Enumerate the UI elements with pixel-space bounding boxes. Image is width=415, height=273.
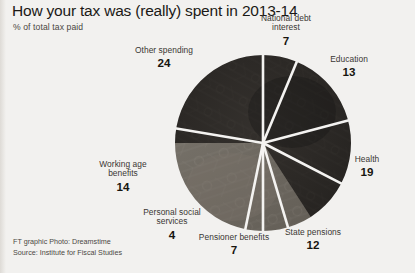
credit-line-graphic: FT graphic Photo: Dreamstime [13,236,122,247]
slice-label-other-spending: Other spending 24 [122,46,206,69]
slice-label-health: Health 19 [340,155,394,178]
slice-label-text: Personal social services [132,208,212,227]
slice-value-text: 24 [122,56,206,69]
slice-label-text: Other spending [122,46,206,55]
slice-label-text: State pensions [272,228,354,237]
slice-value-text: 7 [243,34,329,47]
slice-label-personal-social-services: Personal social services 4 [132,208,212,241]
slice-value-text: 14 [86,180,160,193]
page-edge-strip [0,0,6,273]
slice-label-state-pensions: State pensions 12 [272,228,354,251]
slice-label-text: Working age benefits [86,160,160,179]
chart-credits: FT graphic Photo: Dreamstime Source: Ins… [13,236,122,258]
slice-label-education: Education 13 [318,55,380,78]
slice-value-text: 4 [132,228,212,241]
slice-label-text: Education [318,55,380,64]
slice-label-text: Health [340,155,394,164]
slice-label-text: National debt interest [243,14,329,33]
slice-value-text: 12 [272,238,354,251]
credit-line-source: Source: Institute for Fiscal Studies [13,247,122,258]
slice-value-text: 7 [192,243,276,256]
slice-label-working-age-benefits: Working age benefits 14 [86,160,160,193]
slice-label-national-debt-interest: National debt interest 7 [243,14,329,47]
slice-value-text: 13 [318,65,380,78]
chart-subtitle: % of total tax paid [13,22,83,32]
slice-value-text: 19 [340,165,394,178]
